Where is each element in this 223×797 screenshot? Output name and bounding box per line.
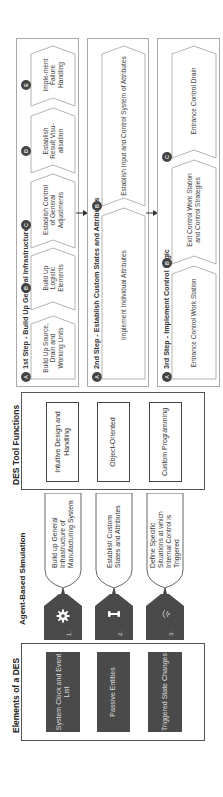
tool-custom-programming: Custom Programming [149,402,182,482]
agent-title: Agent-Based Simulation [18,533,27,625]
agent-label: Define Specific Situations at which Inte… [148,494,182,568]
step-badge: D [21,146,31,156]
step-item-label: Exit Control Work Station and Control St… [174,168,214,252]
step-badge: C [162,152,172,162]
step-badge: B [21,283,31,293]
step-item-label: Entrance Control Drain [174,56,214,146]
element-triggered-changes: Triggered State Changes [148,652,182,732]
agent-item-3: 3. Define Specific Situations at which I… [146,493,184,640]
agent-item-1: 1. Build up General Infrastructure of Ma… [44,493,82,640]
agent-number: 1. [66,631,72,636]
step-item-label: Entrance Control Work Station [174,274,214,372]
step-1-panel: A 1st Step - Build Up General Infrastruc… [16,38,79,387]
tool-object-oriented: Object-Oriented [97,402,130,482]
elements-title: Elements of a DES [11,656,21,735]
step-item-label: Establish Input and Control System of At… [104,56,144,196]
agent-number: 2. [117,631,123,636]
bone-icon [108,608,120,620]
step-item-label: Imple-ment Failure Handling [33,54,73,96]
step-item-label: Establish Control of General Adjustments [33,182,73,238]
step-2-panel: A 2nd Step - Establish Custom States and… [87,38,149,387]
step-item-label: Establish Result Visu-alisation [33,118,73,164]
gear-icon [56,609,70,623]
agent-item-2: 2. Establish Custom States and Attribute… [95,493,133,640]
step-badge: E [21,80,31,90]
step-badge: B [162,258,172,268]
element-system-clock: System Clock and Event List [46,652,80,732]
step-item-label: Build Up Logistic Elements [33,256,73,300]
agent-label: Build up General Infrastructure of Manuf… [46,494,80,568]
agent-number: 3. [168,631,174,636]
tools-title: DES Tool Functions [11,403,21,487]
agent-label: Establish Custom States and Attributes [97,494,131,568]
step-badge: C [21,220,31,230]
diagram-canvas: Elements of a DES System Clock and Event… [0,0,223,797]
step-badge: B [92,201,102,211]
step-item-label: Implement Individual Attributes [104,216,144,374]
tool-intuitive-design: Intuitive Design and Handling [46,402,79,482]
step-3-panel: A 3rd Step - Implement Control Logic B C… [157,38,220,387]
step-item-label: Build Up Source, Drain and Working Units [33,322,73,374]
signal-icon [159,608,171,620]
element-passive-entities: Passive Entities [97,652,130,732]
